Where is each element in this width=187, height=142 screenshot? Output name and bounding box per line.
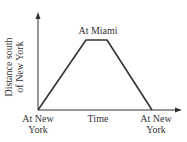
x-axis-arrow-icon [175,108,182,113]
distance-line [38,40,152,110]
annotation-at-miami: At Miami [72,25,124,36]
x-tick-start-line-2: York [14,124,62,135]
x-tick-end-line-1: At New [132,113,180,124]
y-axis-label-line-1: Distance south [3,27,14,107]
x-tick-end-line-2: York [132,124,180,135]
y-axis-label-line-2: of New York [14,27,25,107]
x-tick-start-line-1: At New [14,113,62,124]
x-axis-label: Time [76,113,120,124]
y-axis-label: Distance south of New York [3,27,25,107]
x-tick-start: At New York [14,113,62,135]
y-axis-arrow-icon [36,12,41,19]
x-tick-end: At New York [132,113,180,135]
